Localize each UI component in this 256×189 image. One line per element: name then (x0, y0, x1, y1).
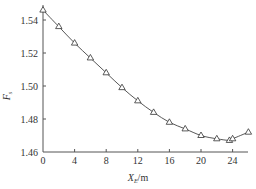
y-tick-label: 1.48 (21, 114, 39, 125)
chart: 048121620241.461.481.501.521.54 Fs XE/m (0, 0, 256, 189)
x-tick-label: 24 (228, 155, 238, 166)
triangle-marker-icon (245, 129, 251, 135)
y-tick-label: 1.46 (21, 147, 39, 158)
x-tick-label: 12 (133, 155, 143, 166)
x-tick-label: 4 (72, 155, 77, 166)
y-axis-title: Fs (1, 91, 13, 101)
x-tick-label: 20 (196, 155, 206, 166)
triangle-marker-icon (87, 54, 93, 60)
y-tick-label: 1.52 (21, 48, 39, 59)
triangle-marker-icon (150, 109, 156, 115)
triangle-marker-icon (135, 97, 141, 103)
x-tick-label: 0 (41, 155, 46, 166)
x-tick-label: 8 (104, 155, 109, 166)
data-curve (43, 10, 248, 140)
y-tick-label: 1.54 (21, 15, 39, 26)
axes (43, 5, 248, 152)
triangle-marker-icon (40, 7, 46, 13)
triangle-marker-icon (119, 84, 125, 90)
x-tick-label: 16 (164, 155, 174, 166)
axis-ticks: 048121620241.461.481.501.521.54 (21, 15, 238, 167)
x-axis-title: XE/m (127, 172, 149, 184)
data-markers (40, 7, 252, 143)
y-tick-label: 1.50 (21, 81, 39, 92)
